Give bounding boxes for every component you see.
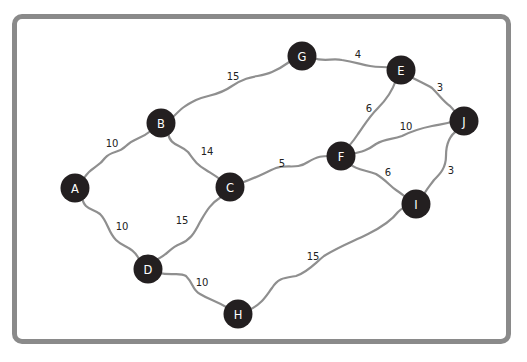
edge-F-I [350,164,407,198]
edge-C-D [158,197,221,259]
node-label: F [338,150,345,164]
edge-weight-B-C: 14 [201,146,214,157]
node-label: A [71,182,79,196]
node-label: B [157,117,165,131]
edge-weight-E-F: 6 [366,103,372,114]
graph-canvas: 1010151415510436106315 ABCDEFGHIJ [0,0,527,362]
edge-B-G [172,60,292,118]
node-label: C [226,181,234,195]
edge-E-F [346,80,396,148]
edge-weight-H-I: 15 [307,251,320,262]
edge-weight-J-I: 3 [448,165,454,176]
edge-H-I [249,206,406,310]
edge-E-J [411,77,456,113]
node-label: D [144,263,153,277]
edge-weight-D-H: 10 [196,277,209,288]
node-C: C [216,173,245,202]
node-label: I [414,198,417,212]
node-layer: ABCDEFGHIJ [61,42,479,329]
edge-C-F [241,156,331,183]
node-D: D [134,255,163,284]
node-H: H [224,300,253,329]
edge-weight-G-E: 4 [355,49,361,60]
node-E: E [387,56,416,85]
node-A: A [61,174,90,203]
node-B: B [147,109,176,138]
edge-G-E [313,58,391,68]
node-I: I [402,190,431,219]
edge-J-I [423,130,458,196]
node-label: G [298,50,307,64]
edge-weight-B-G: 15 [227,71,240,82]
edge-weight-E-J: 3 [437,82,443,93]
edge-weight-A-B: 10 [106,138,119,149]
edge-weight-C-F: 5 [279,158,285,169]
edge-weight-F-I: 6 [385,167,391,178]
edge-label-layer: 1010151415510436106315 [106,49,455,288]
node-label: E [397,64,404,78]
edge-weight-A-D: 10 [116,221,129,232]
node-F: F [327,142,356,171]
edge-A-D [82,197,139,259]
edge-D-H [159,273,228,308]
edge-weight-F-J: 10 [400,121,413,132]
node-J: J [450,107,479,136]
node-G: G [288,42,317,71]
node-label: J [461,115,465,129]
node-label: H [234,308,243,322]
edge-weight-C-D: 15 [176,215,189,226]
